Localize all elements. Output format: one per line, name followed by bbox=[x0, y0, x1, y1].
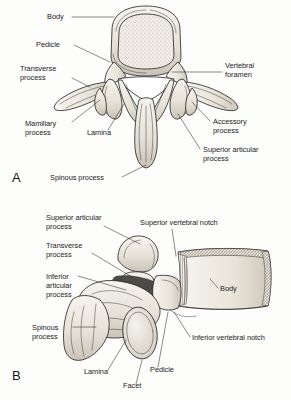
label-spinous-process-b-line2: process bbox=[32, 332, 58, 341]
label-spinous-process-b: Spinous bbox=[32, 323, 59, 332]
leader-lamina-b bbox=[108, 340, 126, 370]
label-mamillary-process-a: Mamillary bbox=[25, 119, 57, 128]
label-spinous-process-a: Spinous process bbox=[50, 173, 104, 182]
panel-letter-b: B bbox=[12, 368, 21, 383]
label-pedicle-b: Pedicle bbox=[150, 365, 174, 374]
label-inferior-articular-process-b-line2: articular bbox=[46, 281, 72, 290]
label-lamina-b: Lamina bbox=[84, 367, 109, 376]
label-mamillary-process-a-line2: process bbox=[25, 128, 51, 137]
label-superior-vertebral-notch-b: Superior vertebral notch bbox=[140, 218, 218, 227]
label-transverse-process-a: Transverse bbox=[20, 64, 56, 73]
label-transverse-process-b-line2: process bbox=[46, 250, 72, 259]
inferior-vertebral-notch-edge bbox=[170, 310, 196, 317]
label-superior-articular-process-a-line2: process bbox=[203, 154, 229, 163]
anatomy-figure: Body Pedicle Transverse process Mamillar… bbox=[0, 0, 291, 400]
leader-sap-b bbox=[104, 226, 140, 244]
label-body-a: Body bbox=[47, 12, 64, 21]
vertebral-body-cancellous bbox=[118, 14, 174, 69]
label-superior-articular-process-b: Superior articular bbox=[46, 213, 102, 222]
spinous-process-b bbox=[63, 296, 109, 361]
label-inferior-articular-process-b-line3: process bbox=[46, 290, 72, 299]
leader-pedicle-a bbox=[74, 45, 110, 62]
label-vertebral-foramen-a-line2: foramen bbox=[225, 70, 252, 79]
label-inferior-articular-process-b: Inferior bbox=[46, 272, 69, 281]
panel-b-drawing bbox=[63, 226, 271, 384]
leader-spinous-a bbox=[122, 165, 146, 177]
leader-sap-a bbox=[178, 114, 200, 149]
leader-pedicle-b bbox=[158, 312, 168, 367]
panel-letter-a: A bbox=[12, 170, 21, 185]
label-superior-articular-process-b-line2: process bbox=[46, 222, 72, 231]
leader-svn-b bbox=[172, 229, 176, 256]
label-superior-articular-process-a: Superior articular bbox=[203, 145, 259, 154]
leader-transverse-a bbox=[72, 78, 90, 87]
vertebra-illustration: Body Pedicle Transverse process Mamillar… bbox=[0, 0, 291, 400]
vertebral-body-lateral bbox=[178, 248, 271, 309]
label-accessory-process-a: Accessory bbox=[213, 117, 247, 126]
label-facet-b: Facet bbox=[123, 381, 141, 390]
label-transverse-process-a-line2: process bbox=[20, 73, 46, 82]
label-pedicle-a: Pedicle bbox=[36, 40, 60, 49]
label-transverse-process-b: Transverse bbox=[46, 241, 82, 250]
label-accessory-process-a-line2: process bbox=[213, 126, 239, 135]
label-lamina-a: Lamina bbox=[87, 128, 112, 137]
label-vertebral-foramen-a: Vertebral bbox=[225, 61, 255, 70]
label-body-b: Body bbox=[220, 284, 237, 293]
label-inferior-vertebral-notch-b: Inferior vertebral notch bbox=[192, 333, 265, 342]
